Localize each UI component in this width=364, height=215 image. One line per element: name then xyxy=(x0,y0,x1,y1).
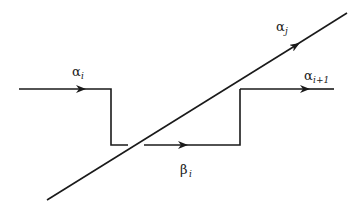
svg-text:α: α xyxy=(304,68,313,83)
label-beta-i: β i xyxy=(180,162,192,179)
svg-text:i: i xyxy=(189,169,192,179)
svg-text:α: α xyxy=(276,19,285,34)
svg-text:β: β xyxy=(180,162,188,177)
label-alpha-i-plus-1: α i+1 xyxy=(304,68,329,85)
label-alpha-i: α i xyxy=(72,64,84,81)
beta-i-path xyxy=(144,89,240,145)
alpha-i-path xyxy=(19,89,128,145)
svg-text:i: i xyxy=(81,71,84,81)
alpha-j-diagonal xyxy=(47,13,347,200)
path-diagram: α i α j α i+1 β i xyxy=(0,0,364,215)
svg-text:α: α xyxy=(72,64,81,79)
svg-text:i+1: i+1 xyxy=(313,75,329,85)
label-alpha-j: α j xyxy=(276,19,288,36)
